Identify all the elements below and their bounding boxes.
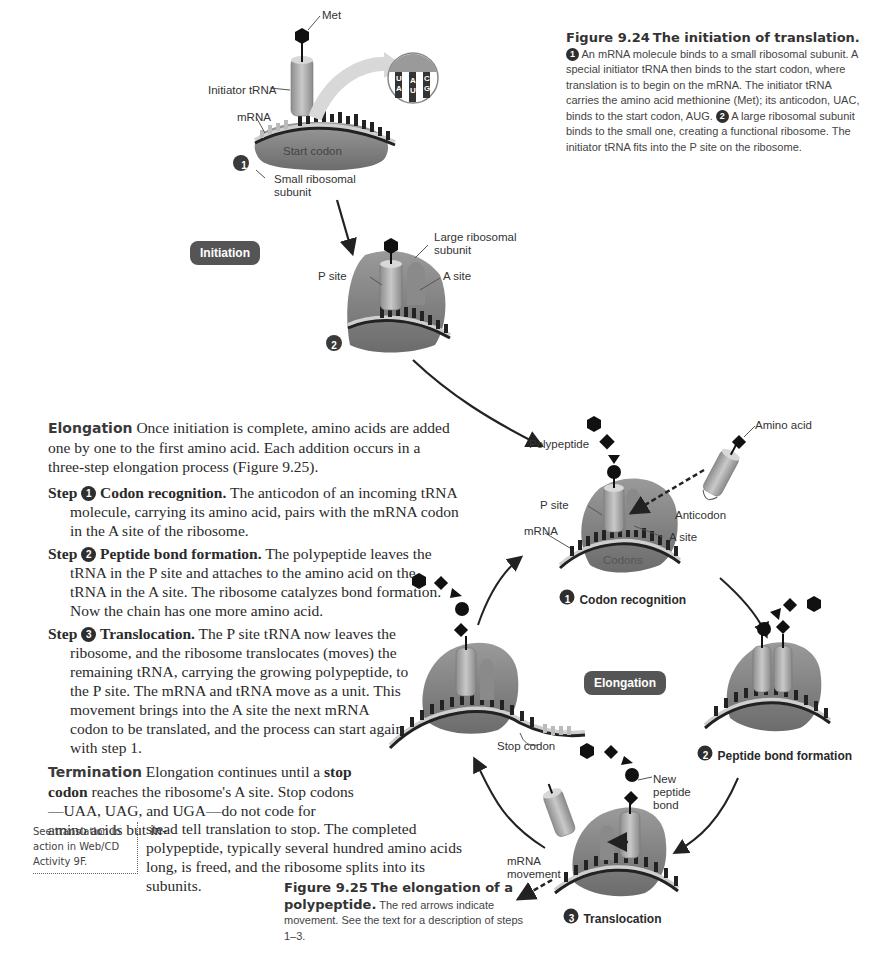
stage-codon-recognition: 1 Codon recognition — [560, 590, 686, 608]
inset-pair-3: C G — [423, 74, 431, 94]
web-cd-activity-note[interactable]: See translation in action in Web/CD Acti… — [33, 822, 138, 874]
inset-pair-2: A U — [409, 76, 417, 96]
label-codons: Codons — [603, 554, 643, 567]
label-mrna: mRNA — [237, 111, 271, 124]
label-met: Met — [322, 9, 341, 22]
label-p-site: P site — [318, 270, 347, 283]
step-1-paragraph: Step 1 Codon recognition. The anticodon … — [48, 483, 465, 540]
peptide-bond-illustration — [698, 596, 831, 761]
step-3-paragraph: Step 3 Translocation. The P site tRNA no… — [48, 624, 410, 757]
label-a-site: A site — [443, 270, 471, 283]
label-stop-codon: Stop codon — [497, 740, 555, 753]
label-new-peptide-bond: New peptide bond — [653, 773, 713, 812]
translocation-illustration — [520, 743, 678, 924]
label-start-codon: Start codon — [283, 145, 342, 158]
elongation-paragraph: Elongation Once initiation is complete, … — [48, 418, 458, 761]
label-p-site-2: P site — [540, 499, 569, 512]
assembled-ribosome-illustration — [326, 238, 450, 353]
figure-9-25-caption: Figure 9.25 The elongation of a polypept… — [284, 880, 529, 944]
elongation-heading: Elongation — [48, 420, 133, 436]
inset-pair-1: U A — [395, 74, 403, 94]
step-1-marker: 1 — [236, 156, 252, 174]
stage-translocation: 3 Translocation — [564, 909, 661, 927]
step-2-marker: 2 — [326, 336, 342, 354]
label-large-subunit: Large ribosomal subunit — [434, 231, 524, 257]
figure-9-24-number: Figure 9.24 — [566, 30, 650, 45]
label-a-site-2: A site — [669, 531, 697, 544]
termination-heading: Termination — [48, 764, 142, 780]
figure-9-24-title: The initiation of translation. — [653, 30, 860, 45]
step-2-paragraph: Step 2 Peptide bond formation. The polyp… — [48, 544, 450, 620]
label-initiator-trna: Initiator tRNA — [208, 84, 276, 97]
figure-9-24-caption: Figure 9.24 The initiation of translatio… — [566, 30, 862, 155]
elongation-badge: Elongation — [584, 671, 666, 695]
label-mrna-2: mRNA — [524, 525, 558, 538]
label-mrna-movement: mRNA movement — [507, 855, 557, 881]
label-small-subunit: Small ribosomal subunit — [274, 173, 364, 199]
label-amino-acid: Amino acid — [755, 419, 812, 432]
initiation-badge: Initiation — [190, 241, 260, 265]
label-polypeptide: Polypeptide — [529, 438, 589, 451]
label-anticodon: Anticodon — [675, 509, 726, 522]
stage-peptide-bond-formation: 2 Peptide bond formation — [698, 746, 852, 764]
figure-9-25-number: Figure 9.25 — [284, 880, 368, 895]
